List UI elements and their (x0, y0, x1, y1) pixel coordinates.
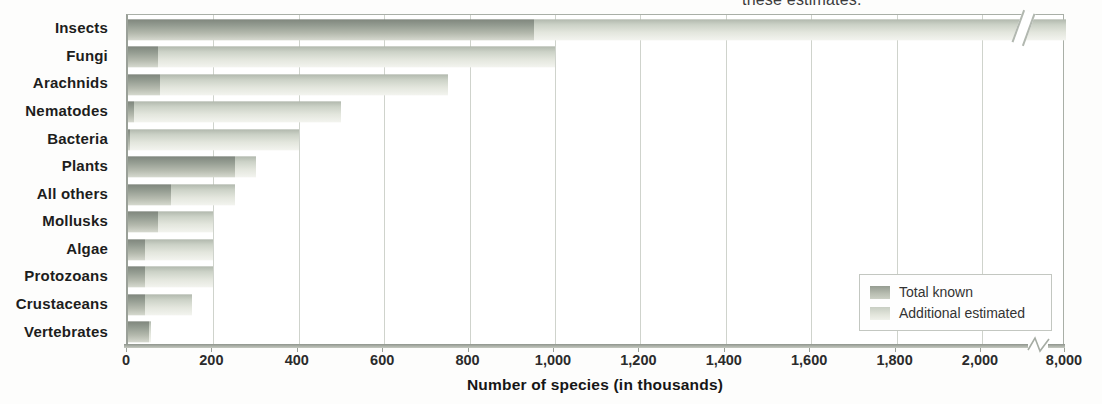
additional-estimated-segment (145, 267, 213, 288)
x-axis-ticks: 02004006008001,0001,2001,4001,6001,8002,… (126, 350, 1064, 370)
bar-row-arachnids (128, 70, 1063, 98)
additional-estimated-swatch (870, 307, 890, 320)
total-known-segment (128, 74, 160, 95)
stacked-bar (128, 102, 341, 123)
tick-label-200: 200 (176, 352, 246, 368)
additional-estimated-segment (149, 322, 151, 343)
category-label-fungi: Fungi (0, 42, 116, 70)
tick-label-800: 800 (433, 352, 503, 368)
category-labels: InsectsFungiArachnidsNematodesBacteriaPl… (0, 14, 116, 345)
tick-label-1000: 1,000 (518, 352, 588, 368)
bar-row-mollusks (128, 208, 1063, 236)
additional-estimated-segment (158, 47, 555, 68)
tick-label-0: 0 (91, 352, 161, 368)
legend-item-additional-estimated: Additional estimated (870, 305, 1051, 321)
total-known-segment (128, 294, 145, 315)
total-known-segment (128, 184, 171, 205)
additional-estimated-segment (145, 239, 213, 260)
tick-label-400: 400 (262, 352, 332, 368)
category-label-protozoans: Protozoans (0, 262, 116, 290)
legend-item-total-known: Total known (870, 284, 1051, 300)
tick-label-1200: 1,200 (603, 352, 673, 368)
total-known-segment (128, 47, 158, 68)
category-label-plants: Plants (0, 152, 116, 180)
category-label-crustaceans: Crustaceans (0, 290, 116, 318)
additional-estimated-segment (158, 212, 214, 233)
stacked-bar (128, 212, 213, 233)
legend-box: Total known Additional estimated (859, 274, 1052, 331)
x-axis-line (124, 344, 1065, 348)
stacked-bar (128, 47, 555, 68)
total-known-segment (128, 19, 534, 40)
tick-label-2000: 2,000 (945, 352, 1015, 368)
stacked-bar (128, 294, 192, 315)
category-label-vertebrates: Vertebrates (0, 317, 116, 345)
additional-estimated-segment (134, 102, 341, 123)
category-label-arachnids: Arachnids (0, 69, 116, 97)
total-known-segment (128, 322, 149, 343)
stacked-bar (128, 157, 256, 178)
plot-area: Total known Additional estimated (126, 14, 1064, 345)
total-known-swatch (870, 286, 890, 299)
stacked-bar (128, 267, 213, 288)
tick-label-8000: 8,000 (1029, 352, 1099, 368)
bar-row-insects (128, 15, 1063, 43)
additional-estimated-segment (235, 157, 256, 178)
bar-row-bacteria (128, 125, 1063, 153)
legend-label: Additional estimated (899, 305, 1025, 321)
stacked-bar (128, 129, 299, 150)
total-known-segment (128, 157, 235, 178)
stacked-bar (128, 74, 448, 95)
additional-estimated-segment (160, 74, 448, 95)
category-label-all-others: All others (0, 179, 116, 207)
bar-row-fungi (128, 43, 1063, 71)
total-known-segment (128, 212, 158, 233)
bar-row-plants (128, 153, 1063, 181)
stacked-bar (128, 322, 151, 343)
stacked-bar (128, 239, 213, 260)
total-known-segment (128, 267, 145, 288)
category-label-insects: Insects (0, 14, 116, 42)
caption-fragment: these estimates. (742, 0, 862, 9)
category-label-algae: Algae (0, 235, 116, 263)
bar-row-all-others (128, 180, 1063, 208)
category-label-nematodes: Nematodes (0, 97, 116, 125)
bar-row-algae (128, 235, 1063, 263)
tick-label-1400: 1,400 (689, 352, 759, 368)
species-bar-chart-figure: these estimates. InsectsFungiArachnidsNe… (0, 0, 1102, 404)
total-known-segment (128, 239, 145, 260)
category-label-mollusks: Mollusks (0, 207, 116, 235)
additional-estimated-segment (171, 184, 235, 205)
x-axis-title: Number of species (in thousands) (126, 376, 1064, 394)
additional-estimated-segment (130, 129, 299, 150)
stacked-bar (128, 19, 1066, 40)
additional-estimated-segment (534, 19, 1066, 40)
tick-label-600: 600 (347, 352, 417, 368)
tick-label-1600: 1,600 (774, 352, 844, 368)
category-label-bacteria: Bacteria (0, 124, 116, 152)
stacked-bar (128, 184, 235, 205)
legend-label: Total known (899, 284, 973, 300)
bar-row-nematodes (128, 98, 1063, 126)
tick-label-1800: 1,800 (860, 352, 930, 368)
additional-estimated-segment (145, 294, 192, 315)
